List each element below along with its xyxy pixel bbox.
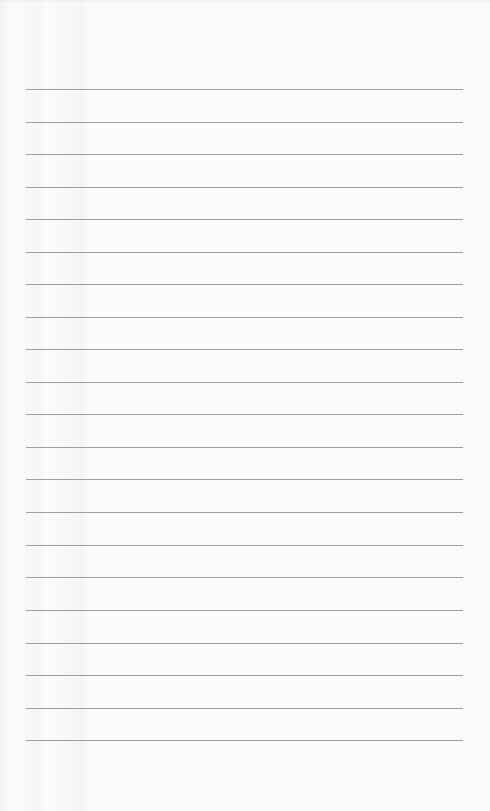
ruled-line	[26, 512, 463, 513]
ruled-line	[26, 252, 463, 253]
ruled-line	[26, 610, 463, 611]
ruled-line	[26, 219, 463, 220]
ruled-line	[26, 545, 463, 546]
ruled-line	[26, 708, 463, 709]
ruled-line	[26, 317, 463, 318]
ruled-line	[26, 577, 463, 578]
ruled-line	[26, 89, 463, 90]
lined-paper-sheet	[0, 0, 490, 811]
ruled-line	[26, 740, 463, 741]
ruled-line	[26, 154, 463, 155]
ruled-line	[26, 284, 463, 285]
ruled-line	[26, 187, 463, 188]
ruled-line	[26, 122, 463, 123]
ruled-line	[26, 349, 463, 350]
ruled-line	[26, 414, 463, 415]
ruled-line	[26, 479, 463, 480]
ruled-line	[26, 382, 463, 383]
ruled-line	[26, 447, 463, 448]
ruled-line	[26, 643, 463, 644]
ruled-line	[26, 675, 463, 676]
